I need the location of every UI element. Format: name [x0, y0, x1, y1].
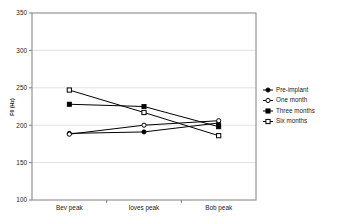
y-axis-tick-label: 250	[16, 84, 27, 91]
chart-legend: Pre-implantOne monthThree monthsSix mont…	[263, 86, 315, 125]
legend-label: Three months	[276, 107, 315, 114]
legend-label: One month	[276, 96, 308, 103]
data-point-filled-square-icon	[67, 102, 71, 106]
legend-label: Pre-implant	[276, 86, 308, 94]
data-point-open-circle-icon	[142, 123, 146, 127]
y-axis-tick-label: 200	[16, 122, 27, 129]
data-point-open-circle-icon	[217, 119, 221, 123]
y-axis-tick-label: 300	[16, 47, 27, 54]
x-axis: Bev peakloves peakBob peak	[56, 200, 233, 212]
y-axis-title: F0 (Hz)	[9, 98, 15, 116]
data-point-open-circle-icon	[67, 132, 71, 136]
legend-marker-filled-square-icon	[266, 109, 270, 113]
data-point-filled-square-icon	[142, 104, 146, 108]
y-axis-tick-label: 150	[16, 159, 27, 166]
data-point-open-square-icon	[217, 134, 221, 138]
legend-marker-filled-circle-icon	[266, 88, 270, 92]
line-chart: 100150200250300350 Bev peakloves peakBob…	[0, 0, 337, 224]
y-axis-tick-label: 350	[16, 9, 27, 16]
data-point-open-square-icon	[67, 88, 71, 92]
figure-container: 100150200250300350 Bev peakloves peakBob…	[0, 0, 337, 224]
data-point-filled-square-icon	[217, 125, 221, 129]
y-axis-tick-label: 100	[16, 196, 27, 203]
x-axis-category-label: Bev peak	[56, 204, 83, 212]
y-axis: 100150200250300350	[16, 9, 32, 203]
data-point-filled-circle-icon	[142, 130, 146, 134]
data-point-open-square-icon	[142, 110, 146, 114]
figure-caption	[0, 217, 337, 224]
x-axis-category-label: Bob peak	[205, 204, 233, 212]
legend-label: Six months	[276, 117, 307, 124]
x-axis-category-label: loves peak	[129, 204, 160, 212]
legend-marker-open-square-icon	[266, 119, 270, 123]
legend-marker-open-circle-icon	[266, 98, 270, 102]
